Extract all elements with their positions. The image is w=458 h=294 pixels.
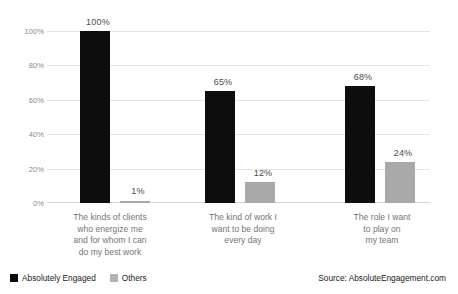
category-label-line: want to be doing <box>186 224 300 236</box>
category-label-line: The kinds of clients <box>50 212 170 224</box>
bar-group-1-others <box>120 201 150 203</box>
bar-group-3-absolutely-engaged <box>345 86 375 203</box>
y-axis-tick-20: 20% <box>4 165 44 174</box>
value-label-text: 100% <box>86 17 110 27</box>
legend-item-label: Absolutely Engaged <box>22 273 96 283</box>
legend-item-label: Others <box>122 273 147 283</box>
bar-group-2-absolutely-engaged <box>205 91 235 203</box>
value-label-text: 12% <box>254 168 273 178</box>
value-label-group-2-absolutely-engaged: 65% <box>185 77 261 87</box>
legend-swatch-icon <box>10 274 18 282</box>
value-label-group-3-others: 24% <box>365 148 441 158</box>
value-label-text: 68% <box>354 72 373 82</box>
y-axis-tick-label: 100% <box>24 27 44 36</box>
category-label-line: and for whom I can <box>50 235 170 247</box>
y-axis-tick-60: 60% <box>4 96 44 105</box>
category-label-line: my team <box>325 235 439 247</box>
category-label-line: do my best work <box>50 247 170 259</box>
category-label-line: every day <box>186 235 300 247</box>
legend-item-others[interactable]: Others <box>110 273 147 283</box>
bar-group-2-others <box>245 182 275 203</box>
y-axis-tick-0: 0% <box>4 199 44 208</box>
value-label-text: 24% <box>394 148 413 158</box>
category-label-3: The role I want to play on my team <box>325 212 439 247</box>
category-label-line: The kind of work I <box>186 212 300 224</box>
y-axis-tick-label: 40% <box>29 130 44 139</box>
category-label-1: The kinds of clients who energize me and… <box>50 212 170 258</box>
value-label-group-2-others: 12% <box>225 168 301 178</box>
bar-group-1-absolutely-engaged <box>80 31 110 203</box>
category-label-line: The role I want <box>325 212 439 224</box>
category-label-line: to play on <box>325 224 439 236</box>
y-axis-tick-label: 60% <box>29 96 44 105</box>
legend-item-absolutely-engaged[interactable]: Absolutely Engaged <box>10 273 96 283</box>
source-note: Source: AbsoluteEngagement.com <box>318 273 446 283</box>
y-axis-tick-80: 80% <box>4 61 44 70</box>
y-axis-tick-label: 0% <box>33 199 44 208</box>
value-label-group-1-others: 1% <box>100 186 176 196</box>
chart-legend: Absolutely Engaged Others <box>10 273 147 283</box>
y-axis-tick-label: 80% <box>29 61 44 70</box>
legend-swatch-icon <box>110 274 118 282</box>
value-label-text: 65% <box>214 77 233 87</box>
category-label-line: who energize me <box>50 224 170 236</box>
y-axis-tick-40: 40% <box>4 130 44 139</box>
value-label-group-3-absolutely-engaged: 68% <box>325 72 401 82</box>
bar-group-3-others <box>385 162 415 203</box>
value-label-group-1-absolutely-engaged: 100% <box>60 17 136 27</box>
y-axis-tick-label: 20% <box>29 165 44 174</box>
bar-chart: 100% 80% 60% 40% 20% 0% 100% 1% <box>0 0 458 294</box>
category-label-2: The kind of work I want to be doing ever… <box>186 212 300 247</box>
value-label-text: 1% <box>131 186 144 196</box>
y-axis-tick-100: 100% <box>4 27 44 36</box>
